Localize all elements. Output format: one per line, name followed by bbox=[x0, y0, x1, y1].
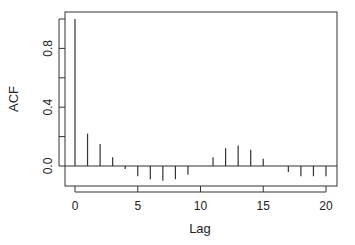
x-tick-label: 0 bbox=[72, 199, 79, 213]
acf-bars bbox=[75, 19, 326, 181]
acf-chart: 0.00.40.8 05101520 Lag ACF bbox=[0, 0, 355, 245]
x-tick-label: 5 bbox=[134, 199, 141, 213]
y-tick-label: 0.0 bbox=[41, 157, 55, 174]
x-axis: 05101520 bbox=[72, 186, 333, 213]
x-tick-label: 15 bbox=[257, 199, 271, 213]
y-axis: 0.00.40.8 bbox=[41, 19, 65, 174]
plot-frame bbox=[65, 12, 337, 186]
y-axis-title: ACF bbox=[6, 86, 21, 112]
x-tick-label: 10 bbox=[194, 199, 208, 213]
x-tick-label: 20 bbox=[319, 199, 333, 213]
y-tick-label: 0.4 bbox=[41, 99, 55, 116]
y-tick-label: 0.8 bbox=[41, 40, 55, 57]
x-axis-title: Lag bbox=[189, 221, 211, 236]
